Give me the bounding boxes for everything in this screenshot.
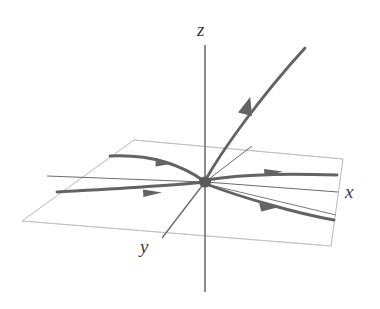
grid-line-lower-right [206, 184, 336, 215]
equilibrium-point [199, 176, 211, 187]
trajectory-upper-right-inflow [206, 174, 337, 180]
phase-portrait-diagram [0, 0, 380, 309]
x-axis-label: x [345, 182, 353, 201]
trajectory-z-outflow [205, 48, 305, 181]
plane-grid-lines [47, 146, 338, 215]
y-axis-label: y [140, 237, 148, 256]
trajectory-arrowheads [143, 97, 283, 212]
xy-plane-group [22, 140, 343, 246]
grid-line-mid-left [47, 176, 204, 182]
xy-plane-outline [22, 140, 343, 246]
trajectory-curves [57, 48, 337, 220]
figure-root: z x y [0, 0, 380, 309]
y-axis-line [162, 182, 205, 238]
arrowhead-lower-left [143, 189, 162, 197]
trajectory-lower-left-inflow [57, 182, 204, 192]
equilibrium-point-group [199, 176, 211, 187]
arrowhead-z-outflow [238, 97, 252, 116]
z-axis-label: z [197, 20, 204, 39]
trajectory-lower-right-inflow [206, 184, 334, 220]
